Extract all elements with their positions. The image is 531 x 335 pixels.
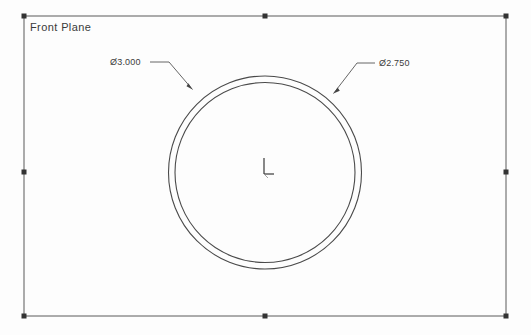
inner-circle[interactable] [175, 83, 355, 263]
handle-bottom-center[interactable] [263, 314, 268, 319]
dimension-leader-inner[interactable] [334, 63, 376, 94]
technical-drawing [0, 0, 531, 335]
handle-middle-right[interactable] [504, 170, 509, 175]
handle-top-left[interactable] [22, 14, 27, 19]
plane-boundary-rect[interactable] [24, 16, 506, 316]
dimension-leader-outer[interactable] [150, 62, 193, 90]
handle-bottom-right[interactable] [504, 314, 509, 319]
leader-arrowhead-inner [334, 88, 340, 94]
plane-label[interactable]: Front Plane [30, 21, 91, 33]
dimension-label-inner[interactable]: Ø2.750 [379, 58, 410, 68]
handle-top-right[interactable] [504, 14, 509, 19]
dimension-label-outer[interactable]: Ø3.000 [110, 57, 141, 67]
handle-bottom-left[interactable] [22, 314, 27, 319]
outer-circle[interactable] [169, 76, 362, 269]
origin-marker[interactable] [264, 158, 274, 178]
handle-middle-left[interactable] [22, 170, 27, 175]
handle-top-center[interactable] [263, 14, 268, 19]
sketch-canvas[interactable]: Front Plane Ø3.000 Ø2.750 [0, 0, 531, 335]
